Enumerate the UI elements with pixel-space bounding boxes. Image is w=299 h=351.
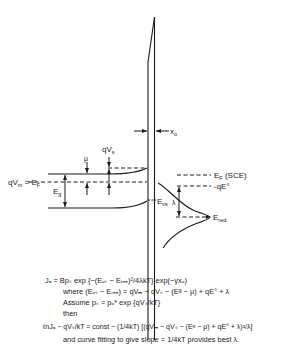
barrier-peak [148,17,155,62]
evs-label: Evs [157,197,168,209]
equation-then: then [63,309,77,319]
qvs-label: qVs [102,145,115,157]
lambda-label: λ [172,198,176,207]
equation-curve-fitting: and curve fitting to give slope = 1/4kT … [63,335,239,345]
equation-log-current: ℓnJₐ − qVₛ/kT = const − (1/4kT) [(qVₘ − … [43,322,252,332]
qe0-label: -qE° [214,182,230,191]
valence-band-edge [48,201,147,208]
eg-label: Eg [53,187,61,199]
mu-label: μ [84,154,88,163]
gaussian-curve [158,183,210,248]
ered-label: Ered [213,213,226,225]
equation-where: where (Eᵥₛ − Eᵣₑₑ) = qVₘ − qVₛ − (Eᵍ − μ… [63,287,229,297]
equation-current: Jₐ = Bpₛ exp {−(Eᵥₛ − Eᵣₑₑ)²/4λkT} exp(−… [45,276,187,286]
equation-assume: Assume pₛ = pₒ* exp {qVₛ/kT} [63,298,160,308]
x0-label: xo [170,127,177,139]
qvm-equals-ef-label: qVm = EF [8,178,40,190]
conduction-band-edge [48,168,147,174]
